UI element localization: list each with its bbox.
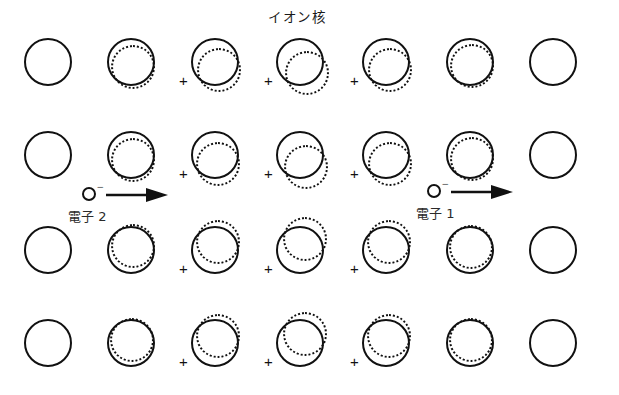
ion-core-circle	[107, 226, 155, 274]
ion-core-circle	[107, 131, 155, 179]
ion-core-circle	[446, 38, 494, 86]
ion-core-circle	[24, 319, 72, 367]
ion-core-circle	[107, 319, 155, 367]
ion-core-circle	[446, 226, 494, 274]
ion-core-circle	[191, 319, 239, 367]
negative-charge-label: −	[442, 178, 449, 190]
ion-core-circle	[107, 38, 155, 86]
ion-core-circle	[191, 131, 239, 179]
positive-charge-label: +	[264, 261, 273, 276]
ion-core-circle	[276, 131, 324, 179]
ion-core-circle	[446, 319, 494, 367]
ion-core-circle	[446, 131, 494, 179]
positive-charge-label: +	[350, 73, 359, 88]
positive-charge-label: +	[350, 354, 359, 369]
positive-charge-label: +	[350, 166, 359, 181]
ion-core-circle	[191, 226, 239, 274]
negative-charge-label: −	[97, 181, 104, 193]
ion-lattice-figure: イオン核 ++++++++++++ −電子 2−電子 1	[0, 0, 619, 395]
positive-charge-label: +	[264, 73, 273, 88]
ion-core-circle	[24, 226, 72, 274]
motion-direction-arrow-icon	[451, 184, 513, 200]
positive-charge-label: +	[264, 166, 273, 181]
ion-core-circle	[362, 226, 410, 274]
electron-name-label: 電子 2	[68, 206, 106, 225]
ion-core-circle	[529, 131, 577, 179]
electron-name-label: 電子 1	[416, 203, 454, 222]
ion-core-circle	[529, 38, 577, 86]
ion-core-circle	[191, 38, 239, 86]
positive-charge-label: +	[264, 354, 273, 369]
figure-title: イオン核	[268, 6, 326, 26]
positive-charge-label: +	[179, 166, 188, 181]
motion-direction-arrow-icon	[106, 187, 168, 203]
positive-charge-label: +	[179, 73, 188, 88]
ion-core-circle	[276, 319, 324, 367]
electron-circle-icon	[82, 187, 96, 201]
ion-core-circle	[276, 226, 324, 274]
ion-core-circle	[362, 38, 410, 86]
ion-core-circle	[362, 319, 410, 367]
positive-charge-label: +	[179, 354, 188, 369]
positive-charge-label: +	[350, 261, 359, 276]
ion-core-circle	[362, 131, 410, 179]
ion-core-circle	[276, 38, 324, 86]
ion-core-circle	[24, 131, 72, 179]
positive-charge-label: +	[179, 261, 188, 276]
ion-core-circle	[529, 319, 577, 367]
ion-core-circle	[24, 38, 72, 86]
ion-core-circle	[529, 226, 577, 274]
electron-circle-icon	[427, 184, 441, 198]
